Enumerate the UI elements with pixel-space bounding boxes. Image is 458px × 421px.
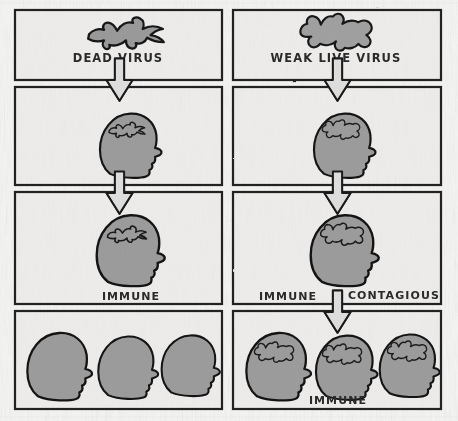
- diagram-page: DEAD VIRUS WEAK LIVE VIRUS IMMUNE IMMUNE…: [0, 0, 458, 421]
- diagram-canvas: DEAD VIRUS WEAK LIVE VIRUS IMMUNE IMMUNE…: [0, 0, 458, 421]
- scan-grain-overlay: [0, 0, 458, 421]
